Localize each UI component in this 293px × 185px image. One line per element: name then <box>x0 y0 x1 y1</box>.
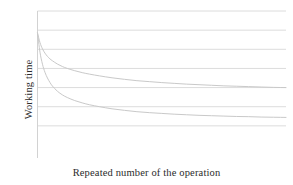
chart-figure: Working time Repeated number of the oper… <box>0 0 293 185</box>
data-series-line <box>38 33 287 117</box>
plot-area <box>0 0 293 185</box>
data-series-group <box>38 33 287 117</box>
y-axis-label: Working time <box>23 40 34 140</box>
gridlines-group <box>38 11 287 126</box>
x-axis-label: Repeated number of the operation <box>0 167 293 178</box>
data-series-line <box>38 33 287 88</box>
